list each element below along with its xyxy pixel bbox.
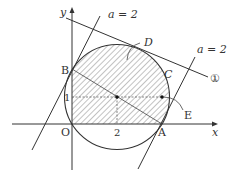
tangent-right-label: a = 2 xyxy=(197,43,227,56)
tangent-left-label: a = 2 xyxy=(108,8,138,21)
point-A-label: A xyxy=(157,126,167,139)
y-axis-label: y xyxy=(59,6,67,19)
coordinate-diagram: y x O B A 1 2 D C E a = 2 a = 2 ① xyxy=(0,0,230,178)
line-1-label: ① xyxy=(210,72,220,85)
region-C-label: C xyxy=(164,68,173,81)
y-tick-1: 1 xyxy=(64,92,70,103)
point-B-label: B xyxy=(61,64,69,77)
y-axis-arrow-icon xyxy=(70,7,75,13)
x-axis-label: x xyxy=(212,126,219,139)
region-D-label: D xyxy=(143,36,153,49)
point-E-label: E xyxy=(184,109,192,122)
x-tick-2: 2 xyxy=(114,127,120,138)
origin-label: O xyxy=(61,126,70,139)
center-point xyxy=(115,95,119,99)
hatched-region xyxy=(72,40,172,124)
